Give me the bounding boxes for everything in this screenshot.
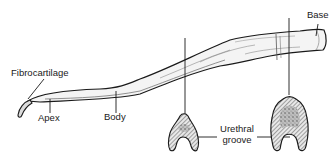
fibrocartilage-tip bbox=[18, 100, 32, 117]
label-fibrocartilage: Fibrocartilage bbox=[11, 68, 69, 78]
label-urethral-groove: Urethral groove bbox=[215, 124, 259, 146]
diagram-canvas bbox=[0, 0, 335, 165]
bone-body bbox=[28, 29, 326, 102]
cross-section-proximal bbox=[271, 97, 308, 151]
cross-section-distal bbox=[169, 114, 199, 151]
label-urethral-groove-line2: groove bbox=[215, 135, 259, 146]
label-apex: Apex bbox=[38, 113, 60, 123]
label-body: Body bbox=[104, 112, 126, 122]
label-base: Base bbox=[307, 10, 329, 20]
